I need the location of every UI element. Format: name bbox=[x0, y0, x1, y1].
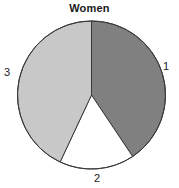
pie-chart-figure: Women 1 2 3 bbox=[0, 0, 179, 188]
pie-slice-label-2: 2 bbox=[94, 172, 100, 184]
pie-slice-label-1: 1 bbox=[163, 60, 169, 72]
pie-slice-label-3: 3 bbox=[4, 66, 10, 78]
pie-slice-group bbox=[18, 21, 166, 169]
pie-chart-graphic bbox=[0, 0, 179, 188]
